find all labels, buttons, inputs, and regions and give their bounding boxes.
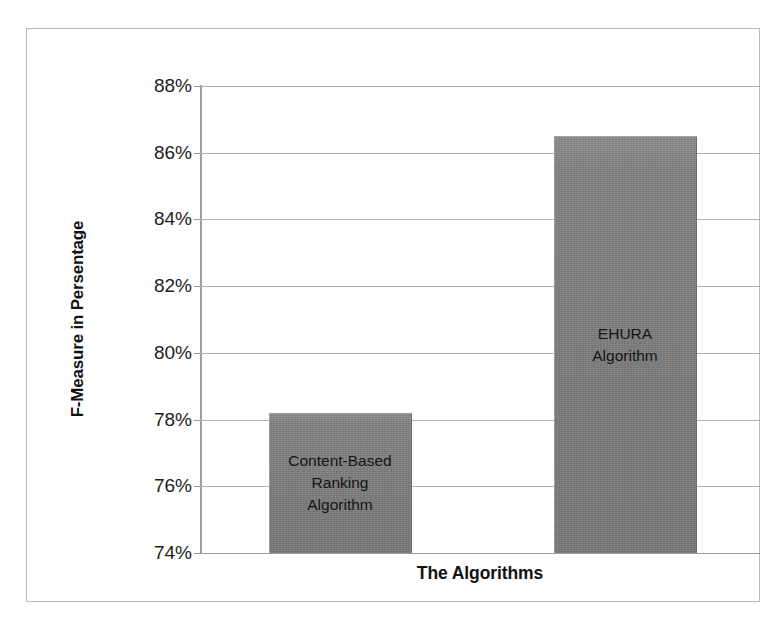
y-axis-tick (194, 420, 200, 421)
y-axis-title: F-Measure in Persentage (65, 84, 91, 554)
bar-1[interactable]: Content-Based Ranking Algorithm (269, 413, 412, 553)
y-axis-tick-label: 74% (122, 542, 192, 564)
chart-frame: F-Measure in Persentage 88%86%84%82%80%7… (26, 28, 760, 602)
y-axis-tick-label: 80% (122, 341, 192, 363)
y-axis-tick-label: 82% (122, 275, 192, 297)
y-axis-tick-labels: 88%86%84%82%80%78%76%74% (122, 86, 192, 553)
y-axis-tick (194, 353, 200, 354)
bar-label-1: Content-Based Ranking Algorithm (269, 450, 412, 516)
y-axis-tick-label: 88% (122, 75, 192, 97)
y-axis-tick (194, 219, 200, 220)
y-axis-tick (194, 86, 200, 87)
x-axis-title: The Algorithms (200, 563, 760, 584)
y-axis-tick-label: 78% (122, 408, 192, 430)
y-axis-line (200, 85, 202, 554)
plot-area: Content-Based Ranking AlgorithmEHURA Alg… (200, 86, 760, 553)
y-axis-tick-label: 86% (122, 141, 192, 163)
y-axis-tick (194, 486, 200, 487)
bar-label-2: EHURA Algorithm (554, 323, 697, 367)
bar-2[interactable]: EHURA Algorithm (554, 136, 697, 553)
y-axis-tick (194, 286, 200, 287)
y-axis-tick (194, 553, 200, 554)
y-axis-tick (194, 153, 200, 154)
y-axis-tick-label: 84% (122, 208, 192, 230)
gridline (200, 86, 760, 87)
y-axis-tick-label: 76% (122, 475, 192, 497)
